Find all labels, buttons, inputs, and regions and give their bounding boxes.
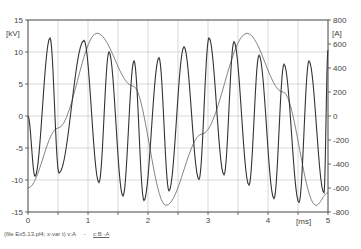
y-left-tick-label: -15: [11, 208, 23, 217]
y-left-tick-label: 0: [19, 112, 24, 121]
legend-file-info: (file Ex5.13.pl4; x-var t): [4, 231, 66, 237]
x-tick-label: 2: [146, 216, 151, 225]
y-right-tick-label: 400: [333, 64, 347, 73]
y-left-tick-label: -5: [16, 144, 24, 153]
y-left-unit-label: [kV]: [6, 29, 20, 38]
x-tick-label: 5: [326, 216, 331, 225]
y-right-tick-label: -600: [333, 184, 350, 193]
x-tick-label: 0: [26, 216, 31, 225]
chart: 151050-5-10-158006004002000-200-400-600-…: [0, 0, 361, 249]
y-left-tick-label: 5: [19, 80, 24, 89]
y-right-tick-label: 200: [333, 88, 347, 97]
y-left-tick-label: 15: [14, 16, 23, 25]
axis-labels: 151050-5-10-158006004002000-200-400-600-…: [11, 16, 349, 225]
y-right-tick-label: -400: [333, 160, 350, 169]
y-left-tick-label: -10: [11, 176, 23, 185]
legend-series-current: c:B -A: [93, 231, 109, 237]
legend-series-voltage: v:A: [67, 231, 75, 237]
y-right-tick-label: 800: [333, 16, 347, 25]
x-tick-label: 1: [86, 216, 91, 225]
grid-lines: [28, 20, 328, 212]
x-tick-label: 3: [206, 216, 211, 225]
y-right-tick-label: -800: [333, 208, 350, 217]
legend: (file Ex5.13.pl4; x-var t) v:A - c:B -A: [4, 231, 109, 237]
y-right-tick-label: 600: [333, 40, 347, 49]
x-tick-label: 4: [266, 216, 271, 225]
legend-separator: -: [83, 231, 85, 237]
y-right-tick-label: -200: [333, 136, 350, 145]
y-left-tick-label: 10: [14, 48, 23, 57]
y-right-tick-label: 0: [333, 112, 338, 121]
y-right-unit-label: [A]: [332, 29, 342, 38]
x-unit-label: [ms]: [296, 217, 311, 226]
